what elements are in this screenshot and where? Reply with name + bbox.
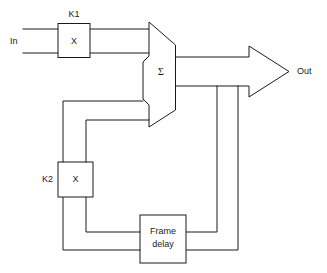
frame-delay-block: Frame delay — [140, 215, 186, 263]
k1-multiplier-symbol: X — [71, 36, 77, 46]
output-arrow-head — [249, 46, 289, 97]
feedback-tap-wires — [186, 86, 238, 250]
summer-output-wires — [176, 57, 250, 86]
k2-multiplier-block: X — [58, 162, 93, 197]
frame-delay-label-line2: delay — [152, 239, 174, 249]
k1-to-summer-wires — [90, 29, 149, 53]
input-port-label: In — [10, 36, 18, 46]
output-arrow — [249, 46, 289, 97]
delay-output-wire-outer — [63, 197, 140, 250]
delay-output-wire-inner — [86, 197, 140, 232]
output-port-label: Out — [297, 66, 312, 76]
k1-multiplier-label: K1 — [68, 9, 79, 19]
block-diagram-canvas: X Σ Frame delay — [0, 0, 327, 273]
k2-to-summer-wires — [63, 101, 149, 162]
feedback-wire-outer — [186, 86, 238, 250]
summer-block: Σ — [143, 22, 176, 127]
feedback-wire-inner — [186, 86, 217, 232]
signal-flow-diagram: X Σ Frame delay — [0, 0, 327, 273]
delay-to-k2-wires — [63, 197, 140, 250]
k2-multiplier-label: K2 — [42, 174, 53, 184]
k1-multiplier-block: X — [58, 24, 90, 58]
k2-output-wire-lower — [86, 120, 149, 162]
summer-sigma-symbol: Σ — [158, 66, 164, 77]
k2-multiplier-symbol: X — [72, 174, 78, 184]
k2-output-wire-upper — [63, 101, 143, 162]
input-bus-wires — [23, 29, 58, 53]
frame-delay-label-line1: Frame — [150, 226, 176, 236]
